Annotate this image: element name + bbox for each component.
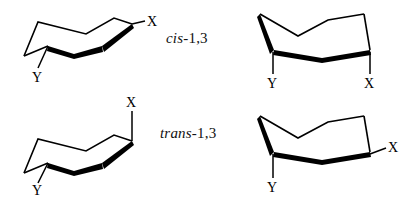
row-label-trans-positions: -1,3	[192, 125, 217, 141]
ring-front-bond-left	[47, 163, 74, 176]
atom-label-y: Y	[32, 70, 42, 85]
structure-trans-right: Y X	[252, 108, 400, 203]
chair-trans-right-drawing: Y X	[252, 108, 400, 203]
ring-front-bond-right	[102, 24, 134, 52]
row-label-trans: trans-1,3	[160, 125, 216, 142]
ring-back-bonds	[260, 14, 364, 36]
chair-cis-left-drawing: X Y	[14, 6, 164, 94]
atom-label-x: X	[388, 140, 398, 155]
ring-front-bond-mid-left	[273, 152, 322, 165]
structure-cis-right: Y X	[252, 6, 392, 98]
atom-label-x: X	[126, 95, 136, 110]
structure-trans-left: X Y	[14, 95, 164, 195]
diagram-canvas: X Y cis-1,3 Y X	[0, 0, 403, 205]
row-label-trans-stereo: trans	[160, 125, 192, 141]
ring-front-bond-mid-left	[273, 50, 322, 63]
row-label-cis: cis-1,3	[166, 30, 208, 47]
atom-label-y: Y	[267, 76, 277, 91]
ring-front-bond-mid	[74, 163, 103, 176]
ring-right-bond	[364, 14, 370, 50]
atom-label-x: X	[147, 14, 157, 29]
bond-to-x	[370, 148, 386, 154]
atom-label-y: Y	[267, 180, 277, 195]
chair-trans-left-drawing: X Y	[14, 95, 164, 195]
ring-front-bond-mid-right	[322, 152, 371, 165]
structure-cis-left: X Y	[14, 6, 164, 94]
ring-front-bond-mid	[74, 46, 103, 59]
row-label-cis-stereo: cis	[166, 30, 183, 46]
atom-label-y: Y	[32, 183, 42, 198]
row-label-cis-positions: -1,3	[183, 30, 208, 46]
ring-front-bond-left	[47, 46, 74, 59]
bond-to-x	[132, 21, 145, 24]
atom-label-x: X	[364, 76, 374, 91]
ring-front-bond-mid-right	[322, 50, 371, 63]
chair-cis-right-drawing: Y X	[252, 6, 392, 98]
ring-back-bonds	[260, 116, 364, 138]
ring-right-bond	[364, 116, 370, 152]
ring-front-bond-right	[102, 141, 134, 169]
